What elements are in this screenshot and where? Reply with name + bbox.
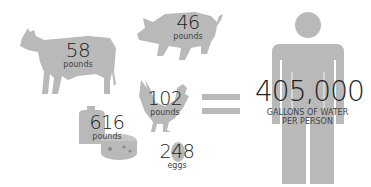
result-line2: PER PERSON (255, 118, 360, 126)
cow-unit: pounds (58, 61, 98, 69)
chicken-label: 102 pounds (142, 89, 188, 117)
dairy-unit: pounds (89, 133, 125, 141)
chicken-unit: pounds (142, 109, 188, 117)
cow-label: 58 pounds (58, 40, 98, 69)
pig-label: 46 pounds (168, 13, 208, 41)
result-value: 405,000 (255, 78, 360, 106)
result-block: 405,000 GALLONS OF WATER PER PERSON (255, 78, 360, 126)
egg-label: 248 eggs (157, 142, 197, 170)
egg-value: 248 (160, 140, 195, 162)
dairy-label: 616 pounds (89, 113, 125, 141)
result-line1: GALLONS OF WATER (255, 109, 360, 117)
pig-value: 46 (176, 11, 199, 33)
chicken-value: 102 (148, 87, 183, 109)
egg-unit: eggs (157, 162, 197, 170)
pig-unit: pounds (168, 33, 208, 41)
dairy-value: 616 (90, 111, 125, 133)
equals-icon (202, 94, 240, 114)
cow-value: 58 (66, 38, 90, 62)
